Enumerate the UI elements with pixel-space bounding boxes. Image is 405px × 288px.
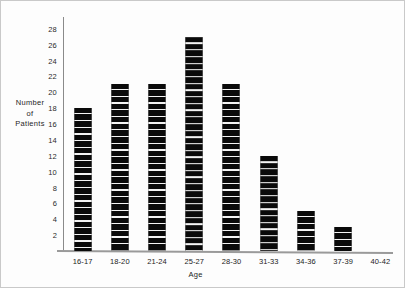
y-axis-tick-label: 8: [53, 183, 64, 192]
bar-slot: [176, 17, 213, 251]
y-axis-tick-label: 6: [53, 199, 64, 208]
bar-37-39: [335, 227, 352, 251]
y-axis-tick-label: 26: [48, 40, 64, 49]
bar-chart-figure: Number of Patients 246810121416182022242…: [0, 0, 405, 288]
y-axis-tick-label: 2: [53, 231, 64, 240]
bar-slot: [287, 17, 324, 251]
x-axis-title-label: Age: [188, 270, 202, 279]
bar-slot: [64, 17, 101, 251]
bar-21-24: [149, 84, 166, 251]
y-axis-tick-label: 18: [48, 104, 64, 113]
y-axis-title-line-1: Number: [7, 98, 53, 109]
bar-31-33: [260, 156, 277, 251]
bar-slot: [213, 17, 250, 251]
y-axis-tick-label: 16: [48, 120, 64, 129]
y-axis-tick-label: 10: [48, 167, 64, 176]
y-axis-tick-label: 12: [48, 151, 64, 160]
y-axis-title-line-3: Patients: [7, 119, 53, 130]
bar-slot: [362, 17, 399, 251]
y-axis-tick-label: 20: [48, 88, 64, 97]
bar-34-36: [297, 211, 314, 251]
y-axis-title-line-2: of: [7, 109, 53, 120]
y-axis-tick-label: 14: [48, 135, 64, 144]
y-axis-tick-label: 4: [53, 215, 64, 224]
bar-25-27: [186, 37, 203, 251]
y-axis-title: Number of Patients: [7, 98, 53, 130]
x-axis-title: Age: [1, 270, 405, 279]
y-axis-tick-label: 28: [48, 24, 64, 33]
plot-area: 246810121416182022242628: [64, 17, 399, 251]
y-axis-tick-label: 22: [48, 72, 64, 81]
bar-slot: [138, 17, 175, 251]
bar-slot: [101, 17, 138, 251]
bar-18-20: [111, 84, 128, 251]
bar-slot: [250, 17, 287, 251]
bar-28-30: [223, 84, 240, 251]
y-axis-tick-label: 24: [48, 56, 64, 65]
x-axis-tick-label: 40-42: [358, 257, 402, 266]
bar-slot: [325, 17, 362, 251]
bar-16-17: [74, 108, 91, 251]
